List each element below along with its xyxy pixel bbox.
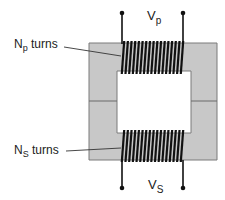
secondary-terminal-right: [181, 186, 186, 191]
primary-voltage-sub: p: [156, 15, 162, 26]
primary-voltage-label: Vp: [147, 9, 161, 26]
secondary-turns-n: N: [14, 143, 23, 157]
secondary-turns-suffix: turns: [29, 143, 59, 157]
secondary-terminal-left: [120, 186, 125, 191]
primary-turns-suffix: turns: [28, 37, 58, 51]
primary-turns-label: Np turns: [14, 38, 58, 53]
primary-terminal-right: [181, 11, 186, 16]
secondary-voltage-v: V: [148, 177, 157, 192]
primary-terminal-left: [120, 11, 125, 16]
transformer-diagram: [0, 0, 225, 200]
secondary-turns-label: NS turns: [14, 144, 59, 159]
primary-turns-n: N: [14, 37, 23, 51]
secondary-voltage-sub: S: [157, 184, 164, 195]
primary-voltage-v: V: [147, 8, 156, 23]
secondary-voltage-label: VS: [148, 178, 163, 195]
